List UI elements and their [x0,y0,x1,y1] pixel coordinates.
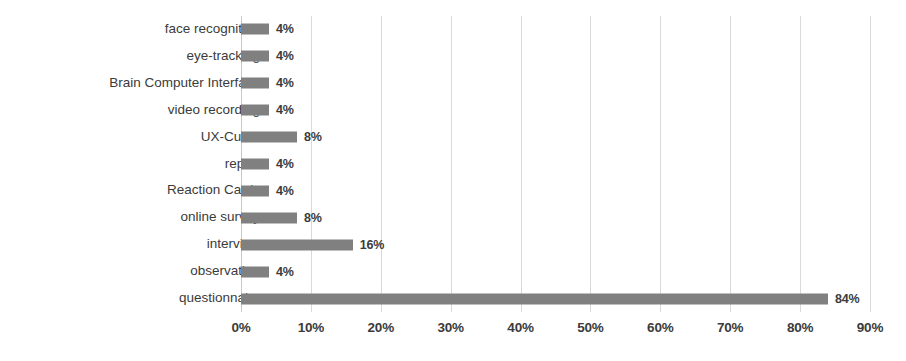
bar-row: 4% [241,151,870,178]
bar-value-label: 4% [276,157,294,171]
bar-row: 4% [241,16,870,43]
bar-value-label: 16% [360,238,384,252]
bar-brain-computer-interface [241,78,269,89]
bar-value-label: 4% [276,22,294,36]
x-tick-label-20: 20% [368,320,394,335]
x-tick-label-90: 90% [857,320,883,335]
x-tick-label-40: 40% [507,320,533,335]
x-tick-label-30: 30% [437,320,463,335]
bar-online-survey [241,212,297,223]
bar-observation [241,266,269,277]
bar-chart: face recognitioneye-trackingBrain Comput… [0,0,906,361]
bar-report [241,158,269,169]
bar-video-recording [241,105,269,116]
bar-value-label: 4% [276,103,294,117]
bar-row: 4% [241,43,870,70]
bar-reaction-cards [241,185,269,196]
x-tick-label-70: 70% [717,320,743,335]
bar-interview [241,239,353,250]
bar-row: 84% [241,285,870,312]
x-tick-label-80: 80% [787,320,813,335]
bar-row: 4% [241,97,870,124]
plot-area: 4%4%4%4%8%4%4%8%16%4%84% [241,16,870,312]
bar-value-label: 8% [304,211,322,225]
x-tick-label-10: 10% [298,320,324,335]
bar-row: 4% [241,70,870,97]
x-axis-labels: 0%10%20%30%40%50%60%70%80%90% [0,320,906,344]
x-tick-label-50: 50% [577,320,603,335]
bar-row: 4% [241,177,870,204]
bar-questionnaire [241,293,828,304]
bar-eye-tracking [241,51,269,62]
bar-value-label: 8% [304,130,322,144]
bar-row: 8% [241,204,870,231]
bar-value-label: 84% [835,292,859,306]
bar-row: 4% [241,258,870,285]
bar-value-label: 4% [276,265,294,279]
bar-ux-curve [241,132,297,143]
bar-value-label: 4% [276,76,294,90]
gridline-90 [870,16,871,312]
x-tick-label-60: 60% [647,320,673,335]
bar-face-recognition [241,24,269,35]
bar-row: 16% [241,231,870,258]
bar-value-label: 4% [276,49,294,63]
category-label-brain-computer-interface: Brain Computer Interface [109,70,260,97]
bar-value-label: 4% [276,184,294,198]
x-tick-label-0: 0% [231,320,250,335]
bar-row: 8% [241,124,870,151]
